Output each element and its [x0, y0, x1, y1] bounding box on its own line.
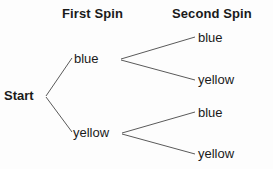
edge-start-to-blue — [46, 58, 72, 96]
node-second-spin-yellow-from-yellow: yellow — [198, 147, 234, 160]
node-second-spin-blue-from-blue: blue — [198, 31, 223, 44]
node-second-spin-yellow-from-blue: yellow — [198, 73, 234, 86]
node-first-spin-blue: blue — [74, 52, 99, 65]
edge-yellow-to-blue — [122, 112, 195, 133]
node-start: Start — [4, 89, 34, 102]
column-header-first-spin: First Spin — [62, 6, 123, 21]
edge-start-to-yellow — [46, 97, 72, 132]
edge-yellow-to-yellow — [122, 134, 195, 154]
column-header-second-spin: Second Spin — [172, 6, 252, 21]
node-first-spin-yellow: yellow — [73, 126, 109, 139]
probability-tree-diagram: First Spin Second Spin Start blue yellow… — [0, 0, 273, 169]
edge-blue-to-yellow — [121, 60, 195, 80]
edge-blue-to-blue — [121, 37, 195, 59]
node-second-spin-blue-from-yellow: blue — [198, 106, 223, 119]
